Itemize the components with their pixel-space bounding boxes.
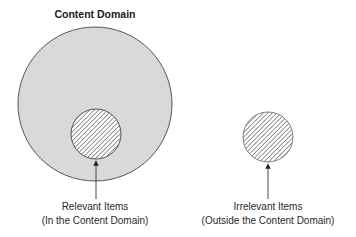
relevant-items-label: Relevant Items (In the Content Domain) xyxy=(0,200,190,228)
relevant-items-label-line2: (In the Content Domain) xyxy=(0,214,190,228)
irrelevant-items-label: Irrelevant Items (Outside the Content Do… xyxy=(185,200,351,228)
relevant-items-circle xyxy=(71,109,121,159)
diagram-title: Content Domain xyxy=(0,8,190,20)
irrelevant-items-circle xyxy=(243,112,293,162)
irrelevant-items-label-line2: (Outside the Content Domain) xyxy=(185,214,351,228)
irrelevant-items-label-line1: Irrelevant Items xyxy=(185,200,351,214)
relevant-items-label-line1: Relevant Items xyxy=(0,200,190,214)
